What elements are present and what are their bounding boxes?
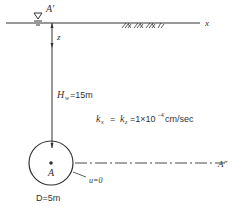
tunnel-seepage-diagram: A′ x z H w =15m k x = k z =1×10 −4 cm/se… [0, 0, 236, 214]
perm-unit: cm/sec [165, 114, 194, 124]
z-axis-label: z [56, 32, 61, 42]
perm-value: =1×10 [130, 114, 156, 124]
depth-symbol: H [56, 89, 65, 100]
ground-hatch-icon [122, 23, 164, 28]
arrow-down-icon [51, 143, 54, 148]
depth-subscript: w [65, 95, 69, 101]
x-axis-label: x [204, 18, 209, 28]
center-point [49, 161, 53, 165]
diameter-label: D=5m [36, 193, 60, 203]
arrow-up-icon [51, 23, 54, 28]
z-arrow-icon [51, 43, 54, 48]
perm-equals: = [110, 114, 115, 124]
perm-exponent: −4 [158, 112, 164, 118]
pressure-label: u=0 [89, 176, 102, 185]
pressure-leader [73, 172, 86, 177]
center-label: A [47, 167, 55, 178]
top-point-label: A′ [45, 3, 55, 14]
perm-kx-subscript: x [100, 119, 104, 125]
perm-kz-subscript: z [124, 119, 128, 125]
right-point-label: A″ [217, 159, 227, 169]
depth-value: =15m [70, 90, 93, 100]
